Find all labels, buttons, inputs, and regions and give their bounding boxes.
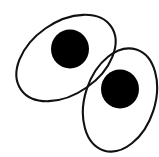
upper-left-disc <box>51 30 89 69</box>
line-drawing-canvas <box>0 0 159 157</box>
figure-root <box>0 0 159 157</box>
lower-right-disc <box>101 70 139 109</box>
